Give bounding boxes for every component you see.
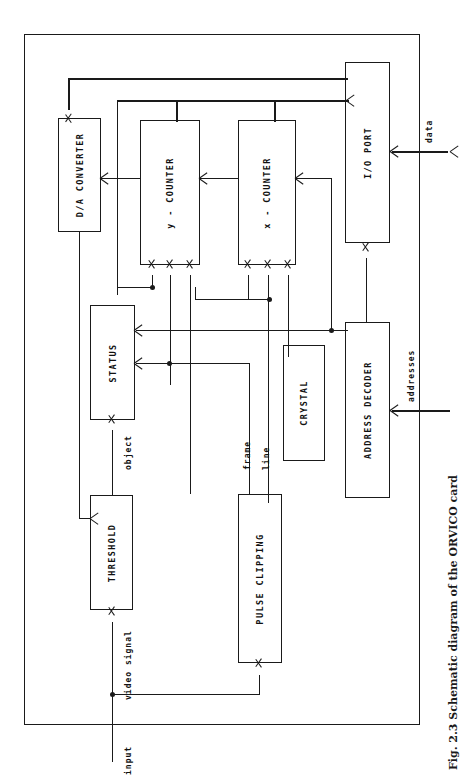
- junction-x-ctrl: [267, 297, 272, 302]
- signal-label-addresses: addresses: [407, 350, 416, 402]
- block-label-y-counter: y - COUNTER: [165, 157, 175, 229]
- block-label-address-decoder: ADDRESS DECODER: [363, 361, 373, 459]
- arrowhead-y-counter-ctrl-1: [147, 264, 158, 275]
- signal-label-input: input: [124, 746, 133, 775]
- arrowhead-addresses-in: [390, 405, 401, 416]
- arrowhead-y-counter-ctrl-2: [165, 264, 176, 275]
- signal-label-object: object: [124, 435, 133, 470]
- line-y-ctrl-3: [190, 275, 191, 494]
- arrowhead-io-port-in: [336, 95, 347, 106]
- signal-label-frame: frame: [243, 441, 252, 470]
- signal-label-line: line: [262, 447, 271, 470]
- line-y-ctrl-1-run: [117, 287, 153, 288]
- block-label-crystal: CRYSTAL: [299, 380, 309, 426]
- line-object: [112, 430, 113, 495]
- line-x-ctrl-3: [288, 275, 289, 356]
- arrowhead-status-object-in: [107, 419, 118, 430]
- arrowhead-da-converter-in: [64, 107, 75, 118]
- arrowhead-x-counter-ctrl-2: [263, 264, 274, 275]
- line-x-ctrl-run-riser: [195, 287, 196, 300]
- block-pulse-clipping: PULSE CLIPPING: [238, 494, 282, 663]
- block-io-port: I/O PORT: [345, 62, 390, 243]
- arrowhead-status-in-1: [134, 325, 145, 336]
- block-status: STATUS: [90, 305, 135, 420]
- block-x-counter: x - COUNTER: [238, 120, 296, 265]
- schematic-figure: D/A CONVERTER y - COUNTER x - COUNTER I/…: [0, 0, 470, 783]
- bus-y-counter-tap: [176, 100, 178, 122]
- line-x-ctrl-1: [248, 275, 249, 300]
- line-decoder-riser-x: [331, 178, 332, 330]
- block-label-status: STATUS: [108, 343, 118, 382]
- line-x-ctrl-run: [195, 299, 271, 300]
- junction-y-ctrl-1: [150, 285, 155, 290]
- bus-x-counter-tap: [274, 100, 276, 122]
- junction-status-in-2: [167, 361, 172, 366]
- arrowhead-y-counter-ctrl-3: [185, 264, 196, 275]
- arrowhead-status-in-2: [134, 358, 145, 369]
- line-video-to-pulse: [112, 694, 260, 695]
- junction-status-in-1: [329, 328, 334, 333]
- line-video-to-pulse-riser: [259, 675, 260, 695]
- arrowhead-x-counter-ctrl-1: [243, 264, 254, 275]
- line-status-in-1: [136, 330, 348, 331]
- arrowhead-data-in: [390, 146, 401, 157]
- block-da-converter: D/A CONVERTER: [58, 118, 101, 232]
- block-label-threshold: THRESHOLD: [107, 523, 117, 582]
- arrowhead-threshold-video-in: [107, 611, 118, 622]
- line-status-in-2: [136, 363, 250, 364]
- arrowhead-io-port-cs-in: [361, 247, 372, 258]
- arrowhead-threshold-ref-in: [80, 513, 91, 524]
- signal-label-video: video signal: [124, 630, 133, 700]
- signal-label-data: data: [425, 120, 434, 143]
- figure-caption: Fig. 2.3 Schematic diagram of the ORVICO…: [447, 475, 460, 770]
- block-label-da-converter: D/A CONVERTER: [75, 133, 85, 218]
- line-crystal-clock: [288, 345, 289, 357]
- block-label-io-port: I/O PORT: [363, 126, 373, 178]
- arrowhead-x-counter-in: [295, 173, 306, 184]
- block-address-decoder: ADDRESS DECODER: [345, 322, 390, 498]
- line-decoder-to-io: [366, 258, 367, 322]
- arrowhead-x-counter-ctrl-3: [283, 264, 294, 275]
- bus-io-to-da: [68, 78, 348, 80]
- arrowhead-pulse-clipping-in: [254, 663, 265, 674]
- bus-io-to-da-drop: [68, 78, 70, 110]
- line-da-output: [79, 232, 80, 518]
- bus-counters-to-io: [117, 100, 349, 102]
- block-label-x-counter: x - COUNTER: [262, 157, 272, 229]
- arrowhead-y-counter-in: [199, 173, 210, 184]
- block-crystal: CRYSTAL: [283, 345, 325, 461]
- bus-left-riser: [117, 100, 118, 295]
- arrowhead-data-out: [440, 146, 451, 157]
- arrowhead-da-converter-side-in: [100, 173, 111, 184]
- block-y-counter: y - COUNTER: [140, 120, 200, 265]
- block-label-pulse-clipping: PULSE CLIPPING: [255, 533, 265, 624]
